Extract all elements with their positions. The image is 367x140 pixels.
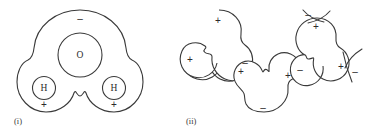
charge-negative-oxygen-side: –	[77, 13, 83, 24]
molecule-left-charge-positive-top: +	[215, 15, 221, 26]
panel-ii: + + – + + – + – – + – (ii)	[180, 9, 362, 126]
charge-positive-hydrogen-right: +	[111, 99, 117, 110]
molecule-right-outline	[290, 18, 349, 86]
hydrogen-atom-left-label: H	[41, 83, 48, 93]
molecule-right-charge-negative-far-right: –	[352, 66, 358, 77]
panel-ii-caption: (ii)	[186, 116, 197, 126]
panel-i-caption: (i)	[14, 116, 22, 126]
charge-positive-hydrogen-left: +	[41, 99, 47, 110]
molecule-middle-charge-positive-left: +	[238, 66, 244, 77]
oxygen-atom-label: O	[77, 50, 84, 60]
panel-i: O H H – + + (i)	[14, 10, 143, 126]
molecule-right-charge-negative-left: –	[297, 64, 303, 75]
molecule-left-charge-positive-left: +	[187, 54, 193, 65]
molecule-middle-charge-negative-bottom: –	[260, 102, 266, 113]
molecule-right-charge-negative-above: –	[305, 9, 311, 20]
molecule-diagram-canvas: O H H – + + (i)	[0, 0, 367, 140]
molecule-right-charge-positive-right: +	[338, 61, 344, 72]
hydrogen-atom-right-label: H	[111, 83, 118, 93]
figure-root: O H H – + + (i)	[0, 0, 367, 140]
molecule-middle-charge-positive-right: +	[285, 70, 291, 81]
molecule-right-charge-positive-top: +	[313, 21, 319, 32]
